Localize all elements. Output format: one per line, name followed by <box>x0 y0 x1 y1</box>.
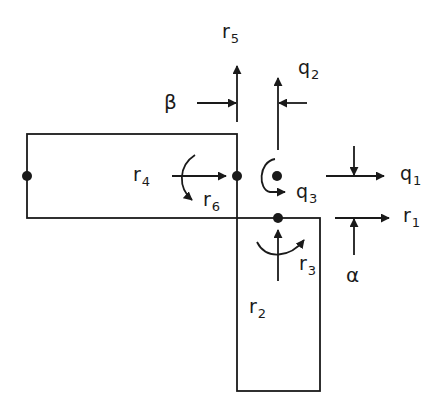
joint-node <box>232 171 242 181</box>
label-beta: β <box>164 92 177 112</box>
label-r5: r5 <box>222 22 239 45</box>
label-r3: r3 <box>299 254 316 277</box>
q-node <box>272 171 282 181</box>
label-q3: q3 <box>296 182 317 205</box>
label-r4: r4 <box>133 165 150 188</box>
label-r2: r2 <box>249 297 266 320</box>
label-q2: q2 <box>298 58 319 81</box>
label-q1: q1 <box>400 164 421 187</box>
label-alpha: α <box>346 265 359 285</box>
r3-rotation-arrow <box>257 240 304 255</box>
left-node <box>22 171 32 181</box>
r6-rotation-arrow <box>182 155 195 200</box>
label-r6: r6 <box>203 190 220 213</box>
label-r1: r1 <box>403 206 420 229</box>
bottom-node <box>273 213 283 223</box>
